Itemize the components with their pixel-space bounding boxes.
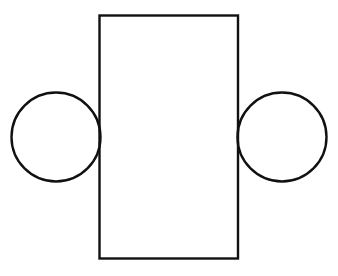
background [0, 0, 338, 276]
diagram-canvas [0, 0, 338, 276]
